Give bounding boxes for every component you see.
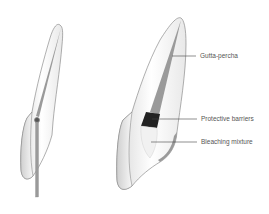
label-gutta-percha: Gutta-percha	[200, 52, 238, 59]
tooth-left-access-point	[35, 118, 40, 123]
tooth-right	[117, 18, 197, 190]
diagram-canvas	[0, 0, 269, 214]
tooth-left	[21, 24, 63, 197]
label-bleaching-mixture: Bleaching mixture	[201, 138, 253, 145]
label-protective-barriers: Protective barriers	[201, 115, 254, 122]
instrument-shaft	[36, 122, 39, 197]
